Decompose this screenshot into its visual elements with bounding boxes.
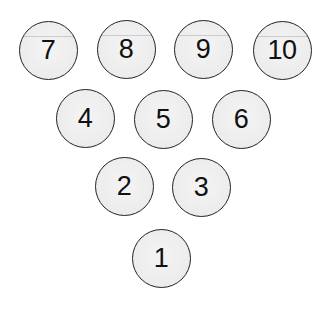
pin-4: 4 [56,89,115,148]
pin-6: 6 [212,90,271,149]
pin-2: 2 [95,157,154,216]
crease-line [24,36,73,37]
pin-label: 6 [234,106,249,133]
pin-label: 5 [156,106,171,133]
pin-label: 7 [41,37,56,64]
pin-10: 10 [253,21,312,80]
pin-label: 3 [194,174,209,201]
crease-line [258,36,307,37]
crease-line [179,35,228,36]
pin-label: 2 [117,173,132,200]
pin-1: 1 [132,229,191,288]
pin-label: 8 [119,36,134,63]
pin-8: 8 [97,20,156,79]
pin-label: 9 [196,36,211,63]
pin-5: 5 [134,90,193,149]
pin-9: 9 [174,20,233,79]
pin-7: 7 [19,21,78,80]
pin-label: 4 [78,105,93,132]
crease-line [102,35,151,36]
pin-diagram: 7 8 9 10 4 5 6 2 3 1 [0,0,328,309]
pin-label: 10 [267,37,296,64]
pin-3: 3 [172,158,231,217]
pin-label: 1 [154,245,169,272]
